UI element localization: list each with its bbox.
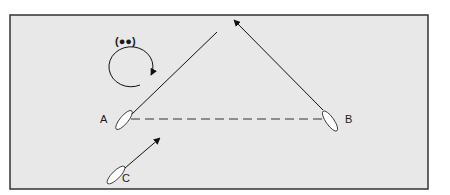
sailing-diagram: A B C (●●): [0, 0, 450, 195]
sound-signal-label: (●●): [115, 35, 136, 47]
label-b: B: [345, 113, 352, 125]
label-c: C: [122, 172, 130, 184]
diagram-frame: [10, 15, 428, 189]
label-a: A: [100, 113, 108, 125]
